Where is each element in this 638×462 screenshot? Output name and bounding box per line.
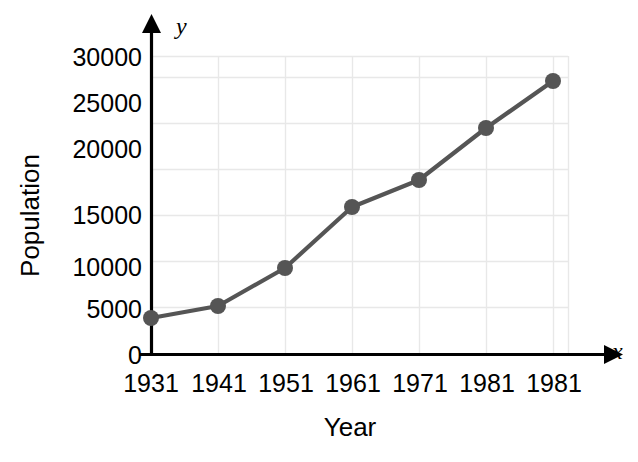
data-point-marker bbox=[210, 298, 226, 314]
x-axis-title: Year bbox=[250, 412, 450, 443]
y-axis-title: Population bbox=[15, 126, 46, 306]
data-point-marker bbox=[277, 260, 293, 276]
data-point-marker bbox=[411, 172, 427, 188]
y-tick-label-10000: 10000 bbox=[30, 255, 142, 280]
data-point-marker bbox=[143, 310, 159, 326]
y-tick-label-0: 0 bbox=[30, 343, 142, 368]
y-tick-label-20000: 20000 bbox=[30, 137, 142, 162]
data-point-marker bbox=[545, 73, 561, 89]
vertical-gridlines bbox=[219, 56, 569, 353]
x-tick-label-6: 1981 bbox=[504, 371, 604, 396]
y-tick-label-25000: 25000 bbox=[30, 91, 142, 116]
y-tick-label-5000: 5000 bbox=[30, 297, 142, 322]
y-tick-label-30000: 30000 bbox=[30, 45, 142, 70]
data-point-marker bbox=[478, 120, 494, 136]
data-point-marker bbox=[344, 199, 360, 215]
x-axis-variable-label: x bbox=[612, 338, 623, 365]
y-tick-label-15000: 15000 bbox=[30, 203, 142, 228]
population-line-chart: 30000 25000 20000 15000 10000 5000 0 193… bbox=[0, 0, 638, 462]
horizontal-gridlines bbox=[151, 57, 568, 308]
y-axis-variable-label: y bbox=[176, 13, 187, 40]
